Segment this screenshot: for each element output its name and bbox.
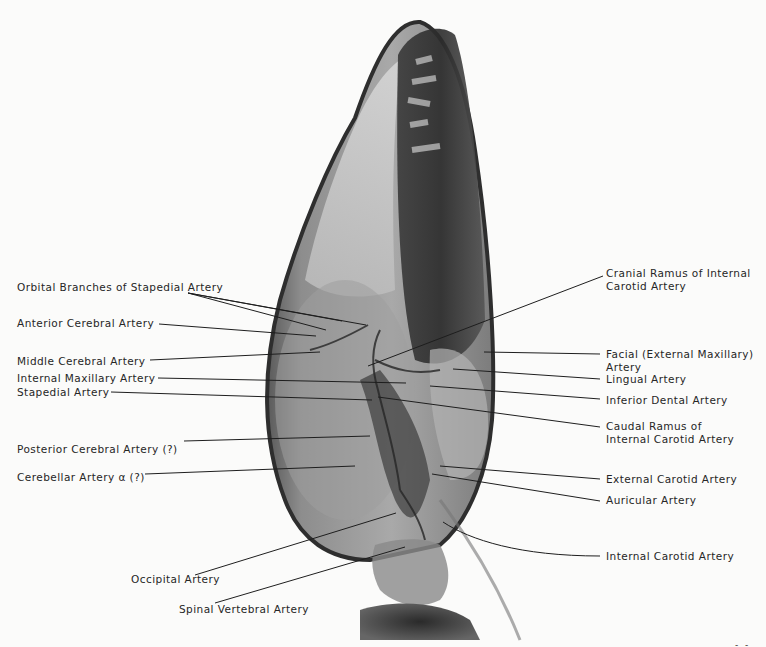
label-anterior-cerebral: Anterior Cerebral Artery [17, 317, 154, 330]
label-cranial-ramus-line1: Cranial Ramus of Internal [606, 267, 751, 280]
label-auricular: Auricular Artery [606, 494, 696, 507]
label-caudal-ramus-line1: Caudal Ramus of [606, 420, 734, 433]
label-posterior-cerebral: Posterior Cerebral Artery (?) [17, 443, 178, 456]
label-stapedial: Stapedial Artery [17, 386, 109, 399]
label-caudal-ramus: Caudal Ramus of Internal Carotid Artery [606, 420, 734, 446]
label-cranial-ramus: Cranial Ramus of Internal Carotid Artery [606, 267, 751, 293]
label-facial-line1: Facial (External Maxillary) [606, 348, 754, 361]
page-mark: - - [735, 640, 750, 647]
label-internal-carotid: Internal Carotid Artery [606, 550, 734, 563]
label-occipital: Occipital Artery [131, 573, 220, 586]
label-internal-maxillary: Internal Maxillary Artery [17, 372, 155, 385]
label-cranial-ramus-line2: Carotid Artery [606, 280, 751, 293]
label-external-carotid: External Carotid Artery [606, 473, 737, 486]
skull-silhouette [267, 22, 493, 560]
label-inferior-dental: Inferior Dental Artery [606, 394, 728, 407]
label-facial: Facial (External Maxillary) Artery [606, 348, 754, 374]
label-caudal-ramus-line2: Internal Carotid Artery [606, 433, 734, 446]
label-spinal-vertebral: Spinal Vertebral Artery [179, 603, 309, 616]
label-cerebellar-alpha: Cerebellar Artery α (?) [17, 471, 145, 484]
label-middle-cerebral: Middle Cerebral Artery [17, 355, 146, 368]
label-orbital-branches: Orbital Branches of Stapedial Artery [17, 281, 223, 294]
label-lingual: Lingual Artery [606, 373, 686, 386]
